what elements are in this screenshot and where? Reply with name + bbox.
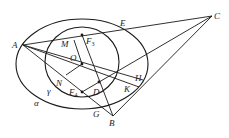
label-B: B: [109, 118, 115, 128]
label-H: H: [134, 73, 142, 83]
point-F4: [81, 91, 84, 94]
line-AC: [23, 16, 212, 45]
label-F4: F4: [68, 87, 78, 98]
label-M: M: [60, 39, 69, 49]
label-O: O: [70, 53, 77, 63]
label-D: D: [92, 87, 100, 97]
geometry-figure: A C E B M F3 O N D F4 H K G γ α: [0, 0, 229, 138]
label-K: K: [123, 84, 131, 94]
point-D: [98, 81, 101, 84]
point-F3: [81, 34, 84, 37]
label-G: G: [93, 109, 100, 119]
line-AK: [23, 45, 139, 87]
line-C-F4: [82, 16, 212, 92]
label-F3: F3: [85, 36, 95, 47]
point-O: [81, 63, 84, 66]
label-E: E: [119, 18, 126, 28]
label-gamma: γ: [47, 86, 51, 96]
line-O-N: [66, 64, 82, 75]
label-N: N: [55, 78, 63, 88]
label-C: C: [214, 11, 221, 21]
line-AH: [23, 45, 143, 80]
label-A: A: [11, 40, 18, 50]
label-alpha: α: [34, 98, 39, 108]
